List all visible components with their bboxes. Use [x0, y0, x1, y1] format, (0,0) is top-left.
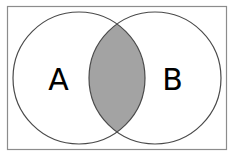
set-b-label: B — [162, 62, 183, 97]
set-a-label: A — [48, 62, 69, 97]
venn-diagram: A B — [0, 0, 231, 158]
intersection-region — [89, 12, 221, 144]
